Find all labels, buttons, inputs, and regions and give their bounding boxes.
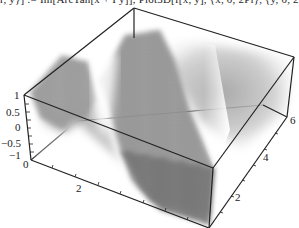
y-tick-label: 4 xyxy=(263,151,269,163)
surface-plot-3d: 1 0.5 0 −0.5 −1 0 2 2 4 6 xyxy=(0,0,299,228)
z-tick-label: 0.5 xyxy=(6,106,20,118)
z-tick-label: −0.5 xyxy=(1,137,21,149)
z-tick-label: 0 xyxy=(15,121,21,133)
x-tick-label: 0 xyxy=(23,158,29,170)
y-tick-label: 6 xyxy=(290,114,296,126)
y-tick-label: 2 xyxy=(235,191,241,203)
z-axis-labels: 1 0.5 0 −0.5 −1 xyxy=(1,89,21,161)
z-tick-label: 1 xyxy=(14,89,20,101)
x-tick-label: 2 xyxy=(76,182,82,194)
z-tick-label: −1 xyxy=(9,149,21,161)
